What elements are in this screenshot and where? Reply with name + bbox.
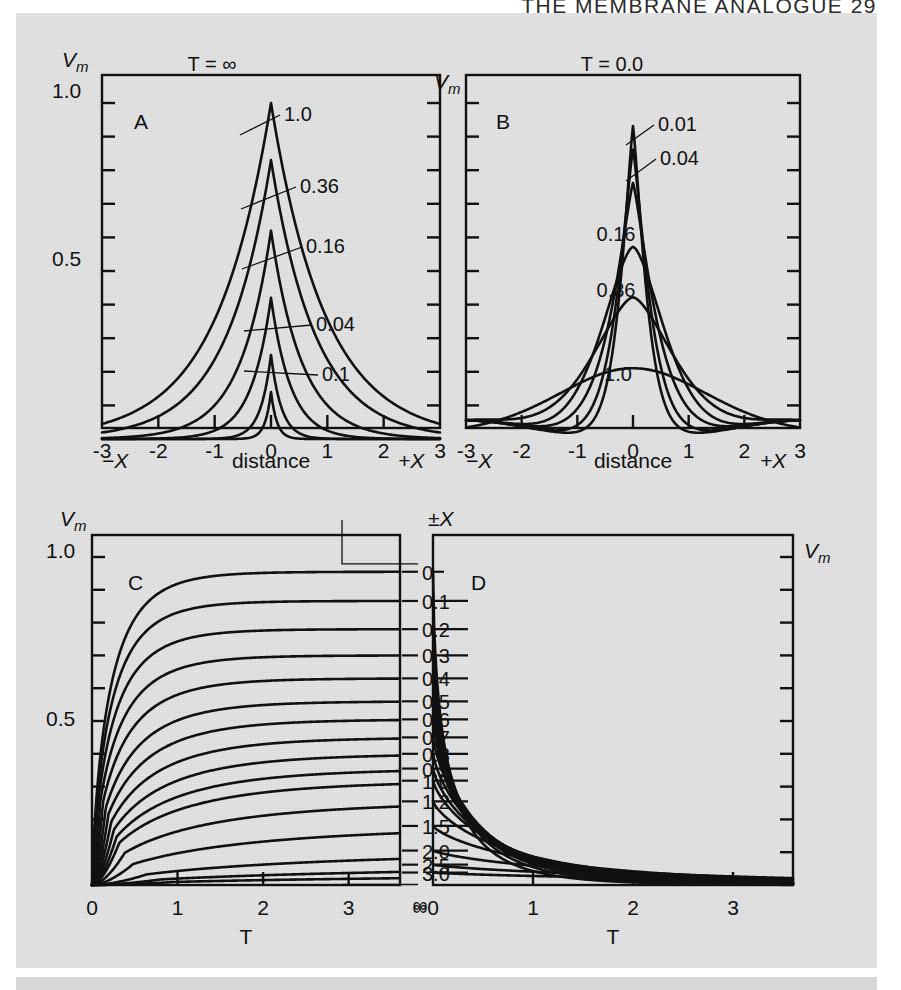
panel-b-x-right-label: +X [760,449,787,472]
panel-d-y-axis-label: Vm [804,539,831,566]
panel-a-leader [241,187,296,209]
panel-c-curve-0 [92,572,400,885]
panel-b-curve-0.04 [466,183,800,426]
panel-a-y-tick-1: 1.0 [52,79,81,102]
panel-c-y-tick-0.5: 0.5 [46,707,75,730]
panel-a-y-tick-0.5: 0.5 [52,247,81,270]
panel-b-curve-label-1.0: 1.0 [604,363,632,385]
panel-c-x-tick-label-2: 2 [257,896,269,919]
mid-column-top-bracket [342,520,418,564]
panel-a-curve-label-0.04: 0.04 [316,313,355,335]
panel-c-y-axis-label: Vm [60,507,87,534]
panel-b-x-left-label: −X [466,449,493,472]
panel-a-x-tick-label--2: -2 [149,439,168,462]
panel-c-letter: C [128,571,143,594]
panel-a-leader [244,325,312,331]
panel-a-letter: A [134,110,148,133]
panel-d-curve-0.5 [433,701,793,882]
panel-d-x-tick-label-2: 2 [627,896,639,919]
panel-b-letter: B [496,110,510,133]
panel-a-x-left-label: −X [102,449,129,472]
panel-a-curve-label-1.0: 1.0 [284,103,312,125]
next-figure-plate [16,977,877,990]
panel-c-curve-0.5 [92,702,400,885]
panel-a-series-header: T = ∞ [188,53,237,75]
panel-b-curve-0.16 [466,247,800,424]
panel-a-x-tick-label-1: 1 [321,439,333,462]
panel-b-curve-label-0.01: 0.01 [658,113,697,135]
panel-a-y-axis-label: Vm [62,48,89,75]
panel-b-leader [626,125,654,145]
panel-b-x-tick-label-1: 1 [683,439,695,462]
panel-a-x-tick-label-2: 2 [378,439,390,462]
panel-b-x-tick-label--2: -2 [512,439,531,462]
mid-column-label-0: 0 [422,562,433,584]
panel-b-curve-label-0.04: 0.04 [660,147,699,169]
panel-a-curve-label-0.1: 0.1 [322,363,350,385]
panel-a-curve-0.36 [102,231,440,438]
panel-d-letter: D [471,571,486,594]
mid-column-header: ±X [428,507,455,530]
panel-c-x-tick-label-3: 3 [343,896,355,919]
mid-column-footer: ∞ [413,893,428,916]
panel-d-x-tick-label-3: 3 [727,896,739,919]
panel-b-curve-label-0.36: 0.36 [597,279,636,301]
panel-a-x-right-label: +X [398,449,425,472]
panel-b-curve-label-0.16: 0.16 [597,223,636,245]
panel-d-curve-0.4 [433,678,793,883]
panel-b-y-axis-label: Vm [434,70,461,97]
panel-c-curve-0.3 [92,656,400,885]
panel-a-x-tick-label--1: -1 [205,439,224,462]
panel-c-y-tick-1: 1.0 [46,539,75,562]
panel-b-x-axis-label: distance [594,449,672,472]
panel-d-x-tick-label-0: 0 [427,896,439,919]
panel-b-x-tick-label-3: 3 [794,439,806,462]
panel-b-chart: Vm B T = 0.0 -3-2-10123 −X distance +X 0… [430,13,830,483]
panels-cd-chart: Vm 1.0 0.5 C 0123∞ T ±X 00.10.20.30.40.5… [16,500,877,970]
panel-b-x-tick-label--1: -1 [568,439,587,462]
panel-d-x-axis-label: T [607,925,620,948]
panel-a-curve-label-0.36: 0.36 [300,175,339,197]
panel-d-curve-0.9 [433,769,793,883]
panel-d-curve-0.8 [433,754,793,884]
panel-a-curve-label-0.16: 0.16 [306,235,345,257]
panel-c-x-tick-label-1: 1 [172,896,184,919]
panel-b-curve-0.36 [466,297,800,420]
panel-a-curve-∞ [102,103,440,424]
panel-d-curve-0.6 [433,719,793,884]
panel-c-x-axis-label: T [240,925,253,948]
panel-a-x-axis-label: distance [232,449,310,472]
panel-c-x-tick-label-0: 0 [86,896,98,919]
panel-b-series-header: T = 0.0 [581,53,643,75]
panel-d-x-tick-label-1: 1 [527,896,539,919]
panel-a-chart: Vm 1.0 0.5 A T = ∞ -3-2-10123 −X distanc… [16,13,446,483]
panel-b-x-tick-label-2: 2 [738,439,750,462]
